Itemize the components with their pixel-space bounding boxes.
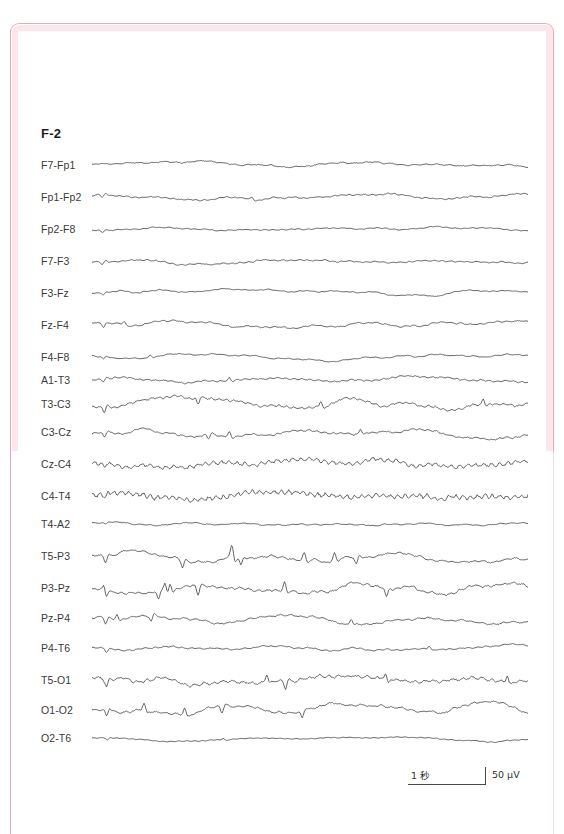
eeg-trace-f7-f3	[92, 246, 528, 276]
scale-bar-time-line	[408, 784, 486, 785]
channel-label-o2-t6: O2-T6	[41, 732, 71, 744]
document-frame-left-edge	[10, 450, 11, 834]
channel-label-fz-f4: Fz-F4	[41, 319, 69, 331]
channel-label-t5-p3: T5-P3	[41, 550, 70, 562]
channel-label-f3-fz: F3-Fz	[41, 287, 69, 299]
channel-label-pz-p4: Pz-P4	[41, 612, 70, 624]
eeg-trace-t3-c3	[92, 389, 528, 419]
page-title: F-2	[41, 126, 61, 141]
eeg-trace-fz-f4	[92, 310, 528, 340]
eeg-trace-f3-fz	[92, 278, 528, 308]
channel-label-t4-a2: T4-A2	[41, 518, 70, 530]
channel-label-t5-o1: T5-O1	[41, 674, 71, 686]
eeg-trace-o1-o2	[92, 695, 528, 725]
channel-label-f7-f3: F7-F3	[41, 255, 70, 267]
channel-label-fp2-f8: Fp2-F8	[41, 223, 75, 235]
document-frame-right-edge	[553, 450, 554, 834]
channel-label-p4-t6: P4-T6	[41, 642, 70, 654]
channel-label-t3-c3: T3-C3	[41, 398, 71, 410]
scale-bar: 1 秒 50 μV	[408, 766, 548, 794]
eeg-trace-fp1-fp2	[92, 182, 528, 212]
channel-label-c3-cz: C3-Cz	[41, 426, 71, 438]
eeg-trace-p4-t6	[92, 633, 528, 663]
channel-label-cz-c4: Cz-C4	[41, 458, 71, 470]
channel-label-o1-o2: O1-O2	[41, 704, 73, 716]
eeg-trace-p3-pz	[92, 573, 528, 603]
eeg-trace-t5-p3	[92, 541, 528, 571]
eeg-trace-f7-fp1	[92, 150, 528, 180]
scale-bar-amplitude-label: 50 μV	[492, 769, 520, 780]
eeg-page: F-2 F7-Fp1Fp1-Fp2Fp2-F8F7-F3F3-FzFz-F4F4…	[0, 0, 564, 834]
scale-bar-amplitude-line	[485, 767, 486, 785]
eeg-trace-cz-c4	[92, 449, 528, 479]
channel-label-f7-fp1: F7-Fp1	[41, 159, 75, 171]
channel-label-a1-t3: A1-T3	[41, 374, 70, 386]
channel-label-c4-t4: C4-T4	[41, 490, 71, 502]
eeg-trace-c3-cz	[92, 417, 528, 447]
eeg-trace-t5-o1	[92, 665, 528, 695]
eeg-trace-o2-t6	[92, 723, 528, 753]
channel-label-f4-f8: F4-F8	[41, 351, 70, 363]
eeg-trace-t4-a2	[92, 509, 528, 539]
eeg-trace-c4-t4	[92, 481, 528, 511]
scale-bar-time-label: 1 秒	[411, 768, 430, 782]
channel-label-fp1-fp2: Fp1-Fp2	[41, 191, 81, 203]
eeg-trace-pz-p4	[92, 603, 528, 633]
eeg-trace-fp2-f8	[92, 214, 528, 244]
channel-label-p3-pz: P3-Pz	[41, 582, 70, 594]
